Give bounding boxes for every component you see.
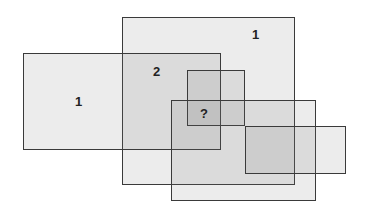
rect-e: [245, 126, 346, 174]
label-region-overlap-two: 2: [153, 65, 160, 78]
label-region-left: 1: [75, 95, 82, 108]
label-region-top-right: 1: [252, 28, 259, 41]
label-region-question: ?: [200, 107, 208, 120]
